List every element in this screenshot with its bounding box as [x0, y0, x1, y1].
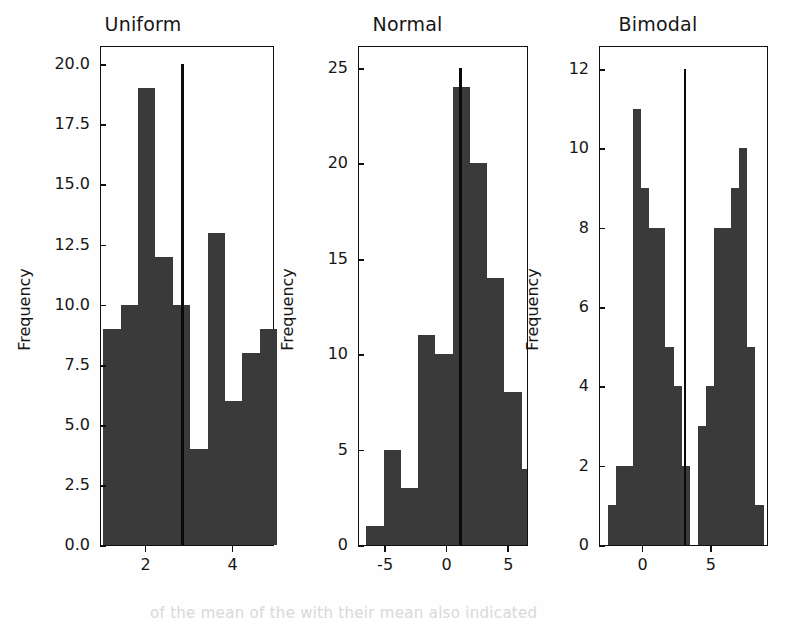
bar [747, 347, 755, 545]
bar [366, 526, 383, 545]
y-tick-label: 2.5 [65, 475, 90, 494]
y-tick-mark [599, 69, 605, 71]
panel-title-uniform: Uniform [0, 14, 286, 34]
bar [470, 163, 487, 545]
bar [522, 469, 527, 545]
y-tick-mark [100, 124, 106, 126]
bar [418, 335, 435, 545]
chart-panel-uniform: Uniform Frequency 0.02.55.07.510.012.515… [0, 0, 286, 618]
y-tick-label: 4 [579, 376, 589, 395]
bar [608, 505, 616, 545]
bar [190, 449, 207, 545]
y-tick-mark [100, 64, 106, 66]
y-tick-mark [358, 259, 364, 261]
bar-series-bimodal [600, 47, 767, 545]
y-axis-uniform: 0.02.55.07.510.012.515.017.520.0 [0, 46, 100, 546]
x-tick-label: 4 [211, 555, 255, 574]
y-tick-label: 12 [569, 59, 589, 78]
plot-area-normal [358, 46, 528, 546]
scan-bleed-text: of the mean of the with their mean also … [0, 604, 788, 618]
bar [155, 257, 172, 545]
y-tick-label: 15.0 [54, 174, 90, 193]
x-axis-bimodal: 05 [599, 546, 768, 586]
y-tick-label: 0 [338, 535, 348, 554]
plot-area-uniform [100, 46, 274, 546]
y-tick-label: 0 [579, 535, 589, 554]
bar [698, 426, 706, 545]
bar [487, 278, 504, 545]
panel-title-normal: Normal [275, 14, 540, 34]
x-tick-mark [507, 546, 509, 552]
y-tick-mark [100, 485, 106, 487]
y-tick-label: 10 [328, 344, 348, 363]
bar [657, 228, 665, 545]
bar [665, 347, 673, 545]
y-tick-label: 2 [579, 456, 589, 475]
bar-series-uniform [101, 47, 273, 545]
y-tick-mark [599, 307, 605, 309]
y-tick-mark [599, 386, 605, 388]
y-tick-label: 10 [569, 138, 589, 157]
y-tick-mark [599, 148, 605, 150]
bar [731, 188, 739, 545]
y-tick-mark [100, 365, 106, 367]
x-axis-normal: -505 [358, 546, 528, 586]
y-tick-mark [100, 245, 106, 247]
bar [384, 450, 401, 545]
y-axis-bimodal: 024681012 [528, 46, 599, 546]
y-tick-mark [358, 68, 364, 70]
bar [674, 386, 682, 545]
x-tick-mark [232, 546, 234, 552]
bar [755, 505, 763, 545]
x-tick-mark [446, 546, 448, 552]
mean-line [181, 64, 183, 545]
bar [208, 233, 225, 546]
y-tick-mark [358, 354, 364, 356]
x-tick-label: -5 [363, 555, 407, 574]
y-tick-label: 5.0 [65, 415, 90, 434]
histogram-figure: Uniform Frequency 0.02.55.07.510.012.515… [0, 0, 788, 618]
y-axis-normal: 0510152025 [275, 46, 358, 546]
x-tick-label: 5 [689, 555, 733, 574]
mean-line [459, 68, 461, 545]
bar [706, 386, 714, 545]
chart-panel-bimodal: Bimodal Frequency 024681012 05 [528, 0, 788, 618]
bar-series-normal [359, 47, 527, 545]
x-tick-label: 0 [621, 555, 665, 574]
chart-panel-normal: Normal Frequency 0510152025 -505 [275, 0, 540, 618]
y-tick-mark [100, 184, 106, 186]
x-tick-label: 5 [486, 555, 530, 574]
y-tick-mark [599, 466, 605, 468]
x-tick-mark [710, 546, 712, 552]
bar [401, 488, 418, 545]
bar [504, 392, 521, 545]
x-tick-label: 2 [124, 555, 168, 574]
bar [616, 466, 624, 545]
x-tick-mark [145, 546, 147, 552]
y-tick-label: 15 [328, 249, 348, 268]
x-tick-label: 0 [425, 555, 469, 574]
bar [121, 305, 138, 545]
bar [242, 353, 259, 545]
bar [435, 354, 452, 545]
y-tick-mark [100, 305, 106, 307]
y-tick-mark [358, 450, 364, 452]
bar [625, 466, 633, 545]
mean-line [684, 69, 686, 545]
bar [649, 228, 657, 545]
bar [633, 109, 641, 546]
y-tick-label: 20.0 [54, 54, 90, 73]
y-tick-label: 5 [338, 440, 348, 459]
y-tick-label: 12.5 [54, 235, 90, 254]
x-tick-mark [384, 546, 386, 552]
bar [641, 188, 649, 545]
y-tick-label: 10.0 [54, 295, 90, 314]
y-tick-mark [599, 228, 605, 230]
y-tick-label: 0.0 [65, 535, 90, 554]
x-tick-mark [642, 546, 644, 552]
y-tick-mark [358, 163, 364, 165]
bar [739, 148, 747, 545]
bar [723, 228, 731, 545]
bar [103, 329, 120, 545]
y-tick-label: 25 [328, 58, 348, 77]
